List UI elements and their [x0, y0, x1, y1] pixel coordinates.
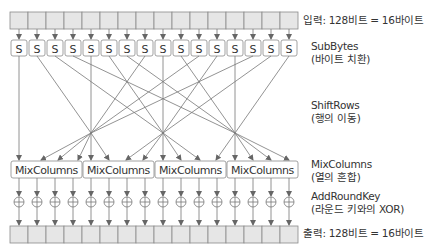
output-byte	[10, 226, 28, 243]
svg-text:S: S	[16, 43, 23, 56]
xor-icon	[140, 197, 150, 207]
subbytes-subtitle: (바이트 치환)	[311, 53, 370, 66]
output-byte	[244, 226, 262, 243]
sbox: S	[101, 40, 117, 56]
input-to-sbox-arrows	[19, 29, 289, 39]
svg-text:S: S	[250, 43, 257, 56]
svg-text:MixColumns: MixColumns	[15, 164, 79, 177]
mixcolumns-subtitle: (열의 혼합)	[311, 171, 372, 184]
output-byte	[28, 226, 46, 243]
input-byte	[10, 12, 28, 29]
input-byte	[154, 12, 172, 29]
output-byte	[64, 226, 82, 243]
sbox: S	[83, 40, 99, 56]
xor-icon	[230, 197, 240, 207]
output-byte	[262, 226, 280, 243]
input-byte	[244, 12, 262, 29]
svg-text:S: S	[196, 43, 203, 56]
shiftrows-subtitle: (행의 이동)	[311, 112, 360, 125]
sbox: S	[227, 40, 243, 56]
svg-text:S: S	[70, 43, 77, 56]
input-byte	[208, 12, 226, 29]
shiftrows-title: ShiftRows	[311, 99, 360, 112]
addroundkey-title: AddRoundKey	[311, 190, 404, 203]
output-bytes-row	[10, 226, 298, 243]
svg-text:MixColumns: MixColumns	[159, 164, 223, 177]
svg-text:S: S	[88, 43, 95, 56]
input-byte	[118, 12, 136, 29]
addroundkey-xor-row	[14, 178, 294, 225]
addroundkey-subtitle: (라운드 키와의 XOR)	[311, 203, 404, 216]
xor-icon	[68, 197, 78, 207]
sbox: S	[245, 40, 261, 56]
xor-icon	[194, 197, 204, 207]
sbox: S	[119, 40, 135, 56]
sbox: S	[281, 40, 297, 56]
xor-icon	[158, 197, 168, 207]
sbox: S	[11, 40, 27, 56]
sbox: S	[65, 40, 81, 56]
sbox: S	[137, 40, 153, 56]
svg-text:S: S	[52, 43, 59, 56]
svg-text:S: S	[178, 43, 185, 56]
output-byte	[280, 226, 298, 243]
input-byte	[46, 12, 64, 29]
xor-icon	[122, 197, 132, 207]
addroundkey-label: AddRoundKey (라운드 키와의 XOR)	[311, 190, 404, 216]
sbox: S	[263, 40, 279, 56]
sbox: S	[47, 40, 63, 56]
svg-text:S: S	[268, 43, 275, 56]
shiftrows-label: ShiftRows (행의 이동)	[311, 99, 360, 125]
xor-icon	[248, 197, 258, 207]
xor-icon	[266, 197, 276, 207]
output-byte	[100, 226, 118, 243]
xor-icon	[32, 197, 42, 207]
xor-icon	[50, 197, 60, 207]
output-byte	[46, 226, 64, 243]
input-byte	[190, 12, 208, 29]
svg-text:MixColumns: MixColumns	[231, 164, 295, 177]
svg-text:S: S	[106, 43, 113, 56]
svg-text:S: S	[160, 43, 167, 56]
svg-text:S: S	[142, 43, 149, 56]
mixcolumns-title: MixColumns	[311, 158, 372, 171]
shiftrows-lines	[19, 56, 289, 160]
output-byte	[136, 226, 154, 243]
subbytes-label: SubBytes (바이트 치환)	[311, 40, 370, 66]
xor-icon	[14, 197, 24, 207]
svg-text:S: S	[214, 43, 221, 56]
svg-text:MixColumns: MixColumns	[87, 164, 151, 177]
input-byte	[28, 12, 46, 29]
subbytes-title: SubBytes	[311, 40, 370, 53]
svg-text:S: S	[34, 43, 41, 56]
input-byte	[64, 12, 82, 29]
input-byte	[172, 12, 190, 29]
output-label: 출력: 128비트 = 16바이트	[303, 227, 424, 240]
input-byte	[280, 12, 298, 29]
xor-icon	[176, 197, 186, 207]
input-byte	[136, 12, 154, 29]
xor-icon	[86, 197, 96, 207]
output-byte	[190, 226, 208, 243]
sbox: S	[155, 40, 171, 56]
sbox: S	[29, 40, 45, 56]
xor-icon	[212, 197, 222, 207]
input-byte	[262, 12, 280, 29]
input-byte	[226, 12, 244, 29]
sbox-row: SSSSSSSSSSSSSSSS	[11, 40, 297, 56]
sbox: S	[173, 40, 189, 56]
output-byte	[118, 226, 136, 243]
output-byte	[82, 226, 100, 243]
output-byte	[172, 226, 190, 243]
output-byte	[208, 226, 226, 243]
mixcolumns-box: MixColumns	[155, 161, 226, 178]
input-bytes-row	[10, 12, 298, 29]
input-byte	[100, 12, 118, 29]
svg-text:S: S	[232, 43, 239, 56]
output-byte	[154, 226, 172, 243]
input-byte	[82, 12, 100, 29]
svg-text:S: S	[286, 43, 293, 56]
sbox: S	[209, 40, 225, 56]
mixcolumns-label: MixColumns (열의 혼합)	[311, 158, 372, 184]
mixcolumns-row: MixColumnsMixColumnsMixColumnsMixColumns	[11, 161, 298, 178]
